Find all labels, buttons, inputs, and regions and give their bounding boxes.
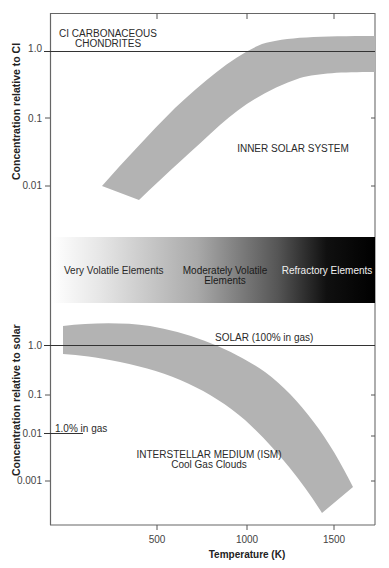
top-ytick-0.01: 0.01 <box>23 180 43 191</box>
x-axis-label: Temperature (K) <box>209 549 286 560</box>
ism-band <box>63 323 353 513</box>
xtick-1000: 1000 <box>236 534 259 545</box>
inner-solar-system-label: INNER SOLAR SYSTEM <box>237 143 349 154</box>
refractory-label: Refractory Elements <box>282 265 373 276</box>
inner-solar-system-band <box>102 36 375 200</box>
top-ytick-0.1: 0.1 <box>28 113 42 124</box>
one-percent-gas-label: 1.0% in gas <box>55 423 107 434</box>
condensation-chart: 1.0 0.1 0.01 Concentration relative to C… <box>0 0 389 568</box>
bottom-ytick-0.01: 0.01 <box>23 428 43 439</box>
bottom-ytick-1: 1.0 <box>28 340 42 351</box>
solar-label: SOLAR (100% in gas) <box>215 332 313 343</box>
moderately-volatile-label-line2: Elements <box>204 275 246 286</box>
xtick-500: 500 <box>149 534 166 545</box>
bottom-ytick-0.1: 0.1 <box>28 389 42 400</box>
ci-label-line2: CHONDRITES <box>75 38 141 49</box>
bottom-y-axis-label: Concentration relative to solar <box>10 324 22 476</box>
top-panel: 1.0 0.1 0.01 Concentration relative to C… <box>10 28 375 200</box>
very-volatile-label: Very Volatile Elements <box>64 265 164 276</box>
volatility-band: Very Volatile Elements Moderately Volati… <box>52 237 375 303</box>
top-y-axis-label: Concentration relative to CI <box>10 43 22 180</box>
top-ytick-1: 1.0 <box>28 43 42 54</box>
ism-label-line2: Cool Gas Clouds <box>171 459 247 470</box>
xtick-1500: 1500 <box>323 534 346 545</box>
